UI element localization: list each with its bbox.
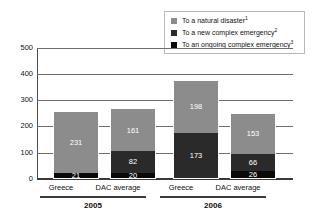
x-label-2006-dac-average: DAC average [208,184,268,192]
bar-2005-dac-average[interactable]: 20 82 161 [110,108,156,179]
group-rule-2006 [160,196,266,198]
bar-segment-new-complex: 173 [174,133,218,178]
legend-item-label: To a new complex emergency2 [182,28,277,37]
legend-item-natural-disaster: To a natural disaster1 [171,16,299,25]
bar-series-container: 21 231 20 82 161 173 198 26 66 153 [37,48,293,179]
y-tick-500: 500 [3,44,33,52]
bar-segment-ongoing: 26 [231,171,275,178]
y-tick-300: 300 [3,96,33,104]
bar-segment-ongoing: 21 [54,173,98,179]
x-axis-labels: Greece DAC average Greece DAC average [0,184,323,196]
x-label-2006-greece: Greece [151,184,211,192]
stacked-bar-chart: To a natural disaster1 To a new complex … [0,0,323,223]
y-tick-400: 400 [3,70,33,78]
bar-segment-natural: 161 [111,109,155,151]
legend-swatch-icon [171,30,177,36]
bar-2006-greece[interactable]: 173 198 [173,80,219,179]
x-label-2005-greece: Greece [31,184,91,192]
x-label-2005-dac-average: DAC average [88,184,148,192]
y-tick-200: 200 [3,122,33,130]
bar-2006-dac-average[interactable]: 26 66 153 [230,113,276,179]
bar-segment-ongoing: 20 [111,173,155,178]
group-separator-rules [0,196,323,198]
legend-swatch-icon [171,18,177,24]
bar-segment-new-complex: 66 [231,154,275,171]
bar-segment-natural: 153 [231,114,275,154]
legend-item-new-complex-emergency: To a new complex emergency2 [171,28,299,37]
plot-area: 21 231 20 82 161 173 198 26 66 153 [37,48,293,179]
bar-2005-greece[interactable]: 21 231 [53,111,99,179]
group-label-2005: 2005 [40,201,146,211]
legend-footnote-marker: 3 [291,39,294,45]
legend-footnote-marker: 1 [245,15,248,21]
group-label-2006: 2006 [160,201,266,211]
legend-footnote-marker: 2 [275,27,278,33]
bar-segment-natural: 231 [54,112,98,173]
group-labels: 2005 2006 [0,201,323,215]
bar-segment-natural: 198 [174,81,218,133]
legend-item-label: To a natural disaster1 [182,16,248,25]
y-tick-100: 100 [3,149,33,157]
bar-segment-new-complex: 82 [111,151,155,173]
group-rule-2005 [40,196,146,198]
y-tick-0: 0 [3,175,33,183]
